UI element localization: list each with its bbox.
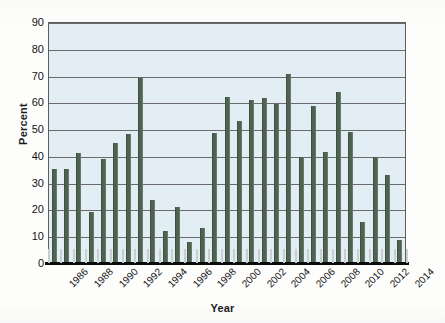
bar [262,98,267,263]
x-tick-mark [270,249,272,263]
x-tick-mark [208,249,210,263]
y-tick-label: 20 [16,203,44,215]
x-tick-mark [196,249,198,263]
bar [237,121,242,263]
bar [373,157,378,263]
x-tick-label: 2006 [314,266,338,290]
y-tick-label: 30 [16,177,44,189]
bar [299,157,304,263]
bar [311,106,316,263]
y-axis-tick-labels: 0102030405060708090 [16,0,44,323]
x-tick-label: 1994 [165,266,189,290]
x-tick-label: 2010 [363,266,387,290]
x-tick-mark [307,249,309,263]
x-tick-label: 1990 [116,266,140,290]
y-tick-label: 80 [16,43,44,55]
x-tick-mark [332,249,334,263]
x-tick-mark [221,249,223,263]
bar-chart-figure: Percent 0102030405060708090 198619881990… [0,0,445,323]
x-tick-mark [48,249,50,263]
y-tick-label: 60 [16,96,44,108]
x-tick-label: 1998 [215,266,239,290]
bar [113,143,118,264]
x-tick-mark [147,249,149,263]
bar [249,100,254,263]
bar [348,132,353,263]
y-tick-label: 70 [16,70,44,82]
bar [138,78,143,263]
x-tick-mark [394,249,396,263]
x-tick-label: 2012 [388,266,412,290]
x-tick-mark [122,249,124,263]
x-tick-label: 2014 [412,266,436,290]
bar [126,134,131,263]
x-tick-mark [381,249,383,263]
y-tick-label: 90 [16,16,44,28]
x-tick-label: 2000 [240,266,264,290]
bar [76,153,81,263]
x-tick-mark [246,249,248,263]
y-tick-label: 10 [16,230,44,242]
x-tick-label: 2002 [264,266,288,290]
x-tick-mark [159,249,161,263]
x-tick-mark [406,249,408,263]
x-tick-label: 1996 [190,266,214,290]
x-tick-mark [85,249,87,263]
y-tick-label: 0 [16,257,44,269]
x-tick-label: 1992 [141,266,165,290]
x-tick-mark [171,249,173,263]
x-tick-mark [295,249,297,263]
x-axis-title: Year [0,302,445,314]
bar [336,92,341,263]
bar [212,133,217,263]
x-tick-mark [134,249,136,263]
x-tick-label: 2008 [338,266,362,290]
x-tick-label: 1986 [67,266,91,290]
x-tick-mark [369,249,371,263]
x-tick-mark [60,249,62,263]
x-tick-mark [344,249,346,263]
x-tick-mark [283,249,285,263]
bar [274,104,279,263]
x-tick-label: 2004 [289,266,313,290]
x-tick-mark [233,249,235,263]
x-tick-mark [258,249,260,263]
x-tick-mark [97,249,99,263]
x-tick-mark [320,249,322,263]
x-tick-mark [184,249,186,263]
y-tick-label: 50 [16,123,44,135]
bar [323,152,328,263]
x-axis-ticks [48,249,406,263]
bar [101,159,106,263]
bar [286,74,291,263]
y-tick-label: 40 [16,150,44,162]
x-tick-label: 1988 [91,266,115,290]
bar-series [48,22,406,263]
bar [225,97,230,263]
x-axis-tick-labels: 1986198819901992199419961998200020022004… [48,266,406,302]
x-tick-mark [357,249,359,263]
x-tick-mark [73,249,75,263]
x-tick-mark [110,249,112,263]
